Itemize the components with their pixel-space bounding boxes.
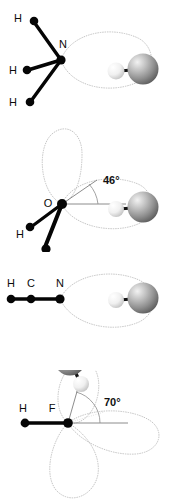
label-h2: H — [9, 64, 17, 76]
panel-hydrogen-cyanide: H C N — [0, 252, 170, 370]
label-h3: H — [9, 96, 17, 108]
atom-h3 — [26, 98, 35, 107]
atom-h1 — [26, 223, 35, 232]
small-sphere — [73, 376, 89, 392]
lone-pair-lobe-right — [68, 411, 159, 454]
lone-pair-lobe-down — [50, 423, 99, 498]
angle-arc — [76, 392, 100, 423]
label-n: N — [59, 38, 67, 50]
label-h: H — [7, 277, 15, 289]
large-sphere — [128, 192, 159, 223]
molecular-geometry-figure: H H H N — [0, 0, 170, 502]
atom-n — [56, 55, 65, 64]
lone-pair-lobe-vertical — [42, 129, 82, 204]
small-sphere — [108, 63, 125, 80]
bond-n-h1 — [34, 22, 61, 60]
angle-arc — [89, 184, 98, 204]
label-f: F — [49, 402, 56, 414]
large-sphere — [55, 370, 86, 376]
label-h: H — [19, 402, 27, 414]
large-sphere — [128, 54, 159, 85]
small-sphere — [108, 201, 124, 217]
atom-c — [27, 295, 36, 304]
atom-n — [55, 294, 64, 303]
label-h1: H — [14, 12, 22, 24]
small-sphere — [108, 292, 124, 308]
atom-o — [57, 199, 67, 209]
atom-h2 — [23, 66, 32, 75]
panel-ammonia: H H H N — [0, 0, 170, 126]
label-o: O — [44, 197, 53, 209]
atom-h2 — [41, 244, 50, 252]
angle-ray-upper — [62, 180, 97, 204]
atom-f — [63, 418, 73, 428]
atom-h — [21, 419, 30, 428]
label-n: N — [56, 277, 64, 289]
large-sphere — [128, 283, 159, 314]
label-h: H — [16, 228, 24, 240]
label-c: C — [27, 277, 35, 289]
panel-hydrogen-fluoride: H F 70° — [0, 370, 170, 502]
atom-h1 — [30, 17, 39, 26]
angle-label: 46° — [103, 174, 120, 186]
atom-h — [7, 295, 16, 304]
angle-label: 70° — [104, 396, 121, 408]
panel-water: O H 46° — [0, 126, 170, 252]
